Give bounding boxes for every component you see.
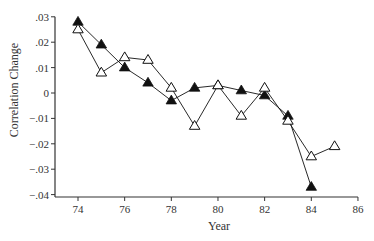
x-tick-label: 74 [73,203,85,215]
open-triangle-marker-icon [259,82,270,91]
open-triangle-marker-icon [213,80,223,89]
filled-triangle-marker-icon [189,82,200,91]
filled-triangle-marker-icon [306,182,316,191]
y-tick-label: .03 [35,11,49,23]
y-tick-label: −.01 [29,112,49,124]
filled-triangle-marker-icon [96,39,107,48]
y-axis-title: Correlation Change [7,43,21,137]
filled-triangle-marker-icon [166,95,176,104]
x-tick-label: 80 [212,203,224,215]
x-tick-label: 76 [119,203,131,215]
y-tick-label: −.02 [29,138,49,150]
y-tick-label: .01 [35,62,49,74]
correlation-change-chart: .03.02.010−.01−.02−.03−.0474767880828486… [0,0,374,241]
y-tick-label: .02 [35,36,49,48]
x-tick-label: 82 [259,203,270,215]
y-tick-label: −.04 [29,189,49,201]
x-tick-label: 78 [166,203,178,215]
open-triangle-marker-icon [329,141,340,150]
open-triangle-marker-icon [306,151,316,160]
x-tick-label: 84 [306,203,318,215]
y-tick-label: −.03 [29,163,49,175]
open-triangle-marker-icon [96,67,107,76]
x-tick-label: 86 [352,203,364,215]
series-layer [73,16,340,190]
open-triangle-marker-icon [119,52,129,61]
open-triangle-marker-icon [143,55,153,64]
filled-triangle-marker-icon [143,77,153,86]
axes: .03.02.010−.01−.02−.03−.0474767880828486 [29,11,364,215]
open-triangles-line [78,30,335,157]
y-tick-label: 0 [44,87,50,99]
x-axis-title: Year [208,219,230,233]
open-triangle-marker-icon [189,121,200,130]
